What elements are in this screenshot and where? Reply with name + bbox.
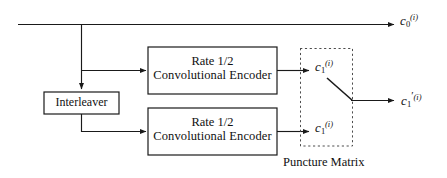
interleaver-box — [44, 92, 119, 114]
signal-parity-top-base: c — [315, 59, 321, 74]
encoder-block-diagram: Rate 1/2 Convolutional Encoder Rate 1/2 … — [0, 0, 447, 178]
encoder-bottom-box — [148, 108, 277, 155]
puncture-switch — [327, 78, 394, 101]
signal-parity-bottom-base: c — [315, 120, 321, 135]
puncture-matrix-caption: Puncture Matrix — [283, 155, 365, 170]
interleaver-to-bottom-encoder-path — [82, 114, 147, 132]
signal-punctured-base: c — [401, 93, 407, 108]
signal-parity-bottom: c1(i) — [315, 119, 333, 136]
encoder-top-box — [148, 47, 277, 94]
signal-punctured-sup: (i) — [413, 92, 421, 102]
signal-parity-top: c1(i) — [315, 58, 333, 75]
signal-parity-bottom-sup: (i) — [325, 119, 333, 129]
diagram-canvas — [0, 0, 447, 178]
signal-parity-top-sup: (i) — [325, 58, 333, 68]
signal-punctured-output: c1′(i) — [401, 89, 421, 109]
signal-systematic-output: c0(i) — [400, 12, 418, 29]
signal-systematic-sup: (i) — [410, 12, 418, 22]
signal-systematic-base: c — [400, 13, 406, 28]
